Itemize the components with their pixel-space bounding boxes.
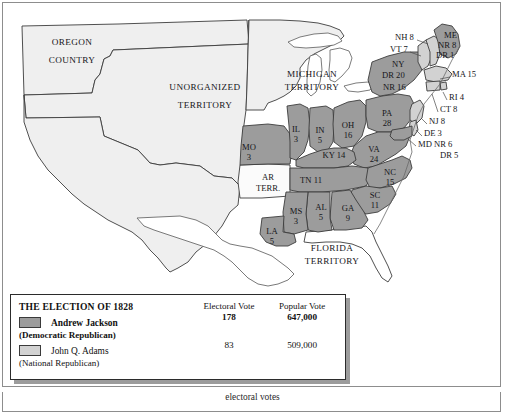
map-label-vt-7: VT 7 [390,44,408,54]
region-florida-territory [304,226,392,282]
election-map-figure: OREGONCOUNTRYUNORGANIZEDTERRITORYMICHIGA… [0,0,505,412]
state-label-ga-abbr: GA [342,203,355,213]
territory-label-michigan-territory-line2: TERRITORY [285,82,339,92]
adams-swatch [19,345,41,356]
state-label-mo-votes: 3 [247,152,251,162]
jackson-party: (Democratic Republican) [19,330,191,340]
jackson-swatch [19,317,41,328]
map-label-nj-8: NJ 8 [429,116,445,126]
map-label-dr-5: DR 5 [440,150,458,160]
map-label-ri-4: RI 4 [449,92,465,102]
map-label-nr-16: NR 16 [383,82,406,92]
state-label-al-abbr: AL [315,202,326,212]
map-label-ny: NY [392,59,404,69]
state-label-nc-abbr: NC [384,167,396,177]
state-label-in-abbr: IN [315,125,325,135]
map-label-de-3: DE 3 [424,128,442,138]
map-label-md-nr-6: MD NR 6 [418,139,453,149]
state-label-nc-votes: 15 [386,177,395,187]
territory-label-florida-territory-line2: TERRITORY [305,256,359,266]
state-label-ar-terr-line1: AR [262,172,274,182]
state-new-jersey [410,100,424,124]
map-label-ma-15: MA 15 [452,69,476,79]
state-label-la-abbr: LA [266,226,278,236]
legend-row-adams-party: (National Republican) [19,358,337,368]
legend-table: THE ELECTION OF 1828 Electoral Vote Popu… [19,301,337,368]
legend-candidate-adams-cell: John Q. Adams [19,340,191,358]
map-label-dr-1: DR 1 [436,50,454,60]
state-label-sc-abbr: SC [370,190,381,200]
state-label-oh-abbr: OH [342,120,354,130]
adams-popular-vote: 509,000 [267,340,337,358]
legend-header-row: THE ELECTION OF 1828 Electoral Vote Popu… [19,301,337,312]
state-label-ms-votes: 3 [294,216,298,226]
state-label-mo-abbr: MO [242,142,256,152]
legend-candidate-jackson-cell: Andrew Jackson [19,312,191,330]
state-rhode-island [440,82,447,90]
state-label-va-votes: 24 [370,154,379,164]
state-label-ky-14: KY 14 [323,150,347,160]
adams-electoral-vote: 83 [191,340,268,358]
state-label-la-votes: 5 [270,236,274,246]
state-label-ar-terr-line2: TERR. [256,183,280,193]
state-label-sc-votes: 11 [371,200,379,210]
legend-col-popular: Popular Vote [267,301,337,312]
map-label-ct-8: CT 8 [440,104,457,114]
territory-label-michigan-territory-line1: MICHIGAN [287,69,337,79]
state-label-pa-votes: 28 [383,118,392,128]
caption-band: electoral votes [2,392,501,412]
state-label-in-votes: 5 [318,135,322,145]
adams-party: (National Republican) [19,358,191,368]
state-label-il-abbr: IL [292,124,300,134]
jackson-name: Andrew Jackson [51,318,118,328]
adams-name: John Q. Adams [51,346,109,356]
state-label-tn-11: TN 11 [300,175,322,185]
state-label-ms-abbr: MS [290,206,303,216]
state-label-va-abbr: VA [368,144,380,154]
figure-caption: electoral votes [3,392,501,402]
territory-label-florida-territory-line1: FLORIDA [311,243,354,253]
state-label-pa-abbr: PA [382,108,393,118]
territory-label-unorganized-territory-line1: UNORGANIZED [169,82,240,92]
territory-label-unorganized-territory-line2: TERRITORY [178,100,232,110]
map-label-nr-8: NR 8 [438,40,456,50]
jackson-popular-vote: 647,000 [267,312,337,330]
state-label-il-votes: 3 [294,134,298,144]
legend-row-jackson: Andrew Jackson 178 647,000 [19,312,337,330]
map-label-dr-20: DR 20 [382,70,405,80]
jackson-electoral-vote: 178 [191,312,268,330]
legend-row-jackson-party: (Democratic Republican) [19,330,337,340]
legend-title: THE ELECTION OF 1828 [19,301,191,312]
state-label-oh-votes: 16 [344,130,353,140]
state-label-al-votes: 5 [319,212,323,222]
legend-col-electoral: Electoral Vote [191,301,268,312]
map-label-nh-8: NH 8 [395,32,414,42]
state-label-ga-votes: 9 [346,213,350,223]
territory-label-oregon-country-line1: OREGON [52,37,93,47]
legend-row-adams: John Q. Adams 83 509,000 [19,340,337,358]
map-label-me: ME [444,30,457,40]
legend-box: THE ELECTION OF 1828 Electoral Vote Popu… [10,294,346,380]
territory-label-oregon-country-line2: COUNTRY [49,55,96,65]
